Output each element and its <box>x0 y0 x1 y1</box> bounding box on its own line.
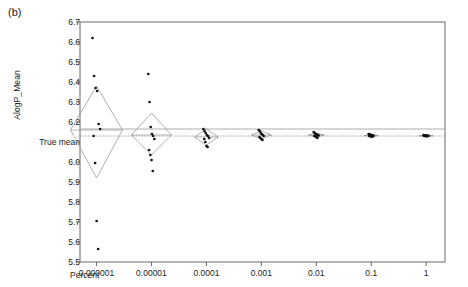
chart-panel: (b) AlogP_Mean Percent 6.76.66.56.46.36.… <box>0 0 468 287</box>
plot-canvas <box>0 0 468 287</box>
